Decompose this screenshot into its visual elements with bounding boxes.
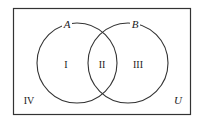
region-i-label: I xyxy=(64,59,67,70)
region-iii-label: III xyxy=(133,59,143,70)
region-ii-label: II xyxy=(99,59,106,70)
set-a-label: A xyxy=(63,18,71,30)
set-b-label: B xyxy=(132,18,139,30)
region-iv-label: IV xyxy=(24,95,35,106)
venn-diagram: A B I II III IV U xyxy=(0,0,197,122)
universe-label: U xyxy=(174,94,183,106)
